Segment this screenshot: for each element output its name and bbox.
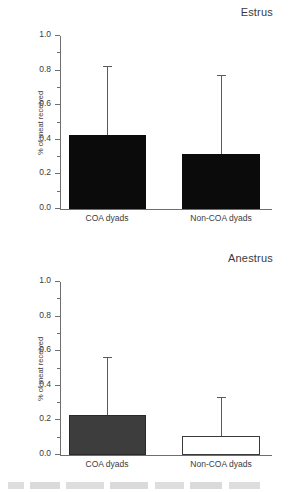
y-minor-tick bbox=[57, 156, 60, 157]
y-minor-tick bbox=[57, 298, 60, 299]
y-tick-4: 0.8 bbox=[55, 70, 60, 71]
y-tick-2: 0.4 bbox=[55, 385, 60, 386]
bar-anestrus-non-coa-dyads bbox=[182, 436, 260, 455]
x-tick-label-coa-dyads: COA dyads bbox=[86, 459, 129, 469]
y-tick-label-5: 1.0 bbox=[39, 275, 51, 285]
y-tick-1: 0.2 bbox=[55, 419, 60, 420]
y-tick-2: 0.4 bbox=[55, 139, 60, 140]
y-axis-line bbox=[60, 36, 61, 209]
y-minor-tick bbox=[57, 52, 60, 53]
y-minor-tick bbox=[57, 402, 60, 403]
plot-area-estrus: 0.0 0.2 0.4 0.6 0.8 1.0 COA dyad bbox=[60, 36, 272, 209]
y-tick-label-3: 0.6 bbox=[39, 98, 51, 108]
y-tick-5: 1.0 bbox=[55, 35, 60, 36]
y-tick-label-4: 0.8 bbox=[39, 310, 51, 320]
error-bar-estrus-coa-dyads bbox=[107, 67, 108, 134]
x-axis-line bbox=[60, 455, 272, 456]
error-cap-estrus-non-coa-dyads bbox=[217, 75, 226, 76]
panel-estrus: Estrus % of meat received 0.0 0.2 0.4 0.… bbox=[0, 0, 289, 246]
panel-title-anestrus: Anestrus bbox=[228, 252, 273, 264]
caption-text-cutoff bbox=[8, 482, 281, 489]
y-tick-5: 1.0 bbox=[55, 281, 60, 282]
y-tick-label-0: 0.0 bbox=[39, 448, 51, 458]
y-tick-4: 0.8 bbox=[55, 316, 60, 317]
y-tick-label-5: 1.0 bbox=[39, 29, 51, 39]
error-cap-estrus-coa-dyads bbox=[103, 66, 112, 67]
y-tick-3: 0.6 bbox=[55, 350, 60, 351]
bar-estrus-coa-dyads bbox=[69, 135, 146, 209]
y-axis-line bbox=[60, 282, 61, 455]
plot-area-anestrus: 0.0 0.2 0.4 0.6 0.8 1.0 COA dyads Non- bbox=[60, 282, 272, 455]
y-tick-0: 0.0 bbox=[55, 208, 60, 209]
y-tick-label-1: 0.2 bbox=[39, 167, 51, 177]
y-minor-tick bbox=[57, 333, 60, 334]
y-tick-label-2: 0.4 bbox=[39, 133, 51, 143]
y-tick-1: 0.2 bbox=[55, 173, 60, 174]
bar-estrus-non-coa-dyads bbox=[182, 154, 260, 209]
y-tick-label-2: 0.4 bbox=[39, 379, 51, 389]
y-minor-tick bbox=[57, 122, 60, 123]
x-tick-label-coa-dyads: COA dyads bbox=[86, 213, 129, 223]
y-tick-0: 0.0 bbox=[55, 454, 60, 455]
bar-anestrus-coa-dyads bbox=[69, 415, 146, 455]
error-bar-estrus-non-coa-dyads bbox=[221, 76, 222, 154]
error-cap-anestrus-non-coa-dyads bbox=[217, 397, 226, 398]
panel-title-estrus: Estrus bbox=[241, 6, 273, 18]
x-tick-label-non-coa-dyads: Non-COA dyads bbox=[190, 213, 251, 223]
y-tick-label-4: 0.8 bbox=[39, 64, 51, 74]
error-cap-anestrus-coa-dyads bbox=[103, 357, 112, 358]
y-minor-tick bbox=[57, 87, 60, 88]
error-bar-anestrus-coa-dyads bbox=[107, 358, 108, 415]
y-minor-tick bbox=[57, 191, 60, 192]
panel-anestrus: Anestrus % of meat received 0.0 0.2 0.4 … bbox=[0, 246, 289, 492]
y-tick-label-3: 0.6 bbox=[39, 344, 51, 354]
y-tick-3: 0.6 bbox=[55, 104, 60, 105]
error-bar-anestrus-non-coa-dyads bbox=[221, 398, 222, 436]
y-minor-tick bbox=[57, 437, 60, 438]
x-tick-label-non-coa-dyads: Non-COA dyads bbox=[190, 459, 251, 469]
y-minor-tick bbox=[57, 368, 60, 369]
x-axis-line bbox=[60, 209, 272, 210]
y-tick-label-0: 0.0 bbox=[39, 202, 51, 212]
y-tick-label-1: 0.2 bbox=[39, 413, 51, 423]
